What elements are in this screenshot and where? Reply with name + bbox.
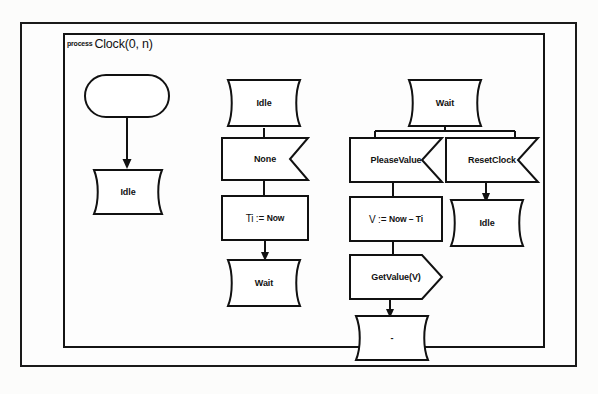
input-symbol-resetclock[interactable]: ResetClock <box>444 136 540 184</box>
process-header: processClock(0, n) <box>67 35 153 51</box>
task-symbol-v[interactable]: V := Now – Ti <box>348 195 444 243</box>
state-symbol-idle-2[interactable]: Idle <box>222 78 306 128</box>
start-symbol[interactable] <box>84 74 170 118</box>
state-symbol-wait-1[interactable]: Wait <box>222 258 306 308</box>
state-symbol-dash[interactable]: - <box>350 314 434 362</box>
process-signature: Clock(0, n) <box>94 37 152 51</box>
state-symbol-wait-2[interactable]: Wait <box>403 78 487 128</box>
state-symbol-idle-3[interactable]: Idle <box>445 198 529 248</box>
connector-start-to-idle <box>120 117 134 170</box>
connector-pleasevalue-to-task-v <box>390 182 396 196</box>
state-symbol-idle-1[interactable]: Idle <box>88 168 168 216</box>
process-keyword: process <box>67 40 92 47</box>
output-symbol-getvalue[interactable]: GetValue(V) <box>348 253 444 301</box>
connector-none-to-task-ti <box>261 180 267 195</box>
input-symbol-none[interactable]: None <box>220 136 310 182</box>
input-symbol-pleasevalue[interactable]: PleaseValue <box>348 136 444 184</box>
task-symbol-ti[interactable]: Ti := Now <box>220 194 310 242</box>
